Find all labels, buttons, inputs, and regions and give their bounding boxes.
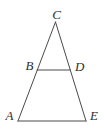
vertex-label-C: C xyxy=(52,7,61,22)
triangle-figure-svg: C B D A E xyxy=(0,0,104,137)
vertex-label-B: B xyxy=(26,58,34,73)
edge-AC xyxy=(18,22,56,121)
triangle-diagram: C B D A E xyxy=(0,0,104,137)
vertex-label-A: A xyxy=(5,108,14,123)
vertex-label-E: E xyxy=(89,108,98,123)
vertex-label-D: D xyxy=(74,59,85,74)
